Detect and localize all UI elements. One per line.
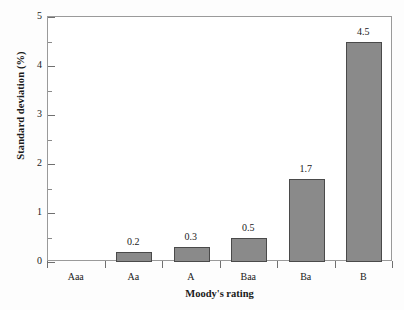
bar-value-label: 4.5 [343,27,383,37]
y-tick-major [48,213,55,214]
bar-value-label: 0.2 [113,237,153,247]
y-tick-label: 4 [16,60,42,70]
y-tick-major [48,17,55,18]
x-category-label: B [333,272,393,282]
x-tick [162,261,163,268]
y-tick-minor [48,91,52,92]
y-tick-minor [48,189,52,190]
y-tick-major [48,164,55,165]
y-axis-title: Standard deviation (%) [15,11,26,201]
x-tick [277,261,278,268]
x-tick [47,261,48,268]
y-tick-major [48,66,55,67]
x-tick [392,261,393,268]
y-tick-major [48,262,55,263]
bar [174,247,210,262]
bar-value-label: 0.3 [171,232,211,242]
bar-value-label: 0.5 [228,223,268,233]
y-tick-major [48,115,55,116]
y-tick-minor [48,42,52,43]
x-tick [105,261,106,268]
bar-value-label: 1.7 [286,164,326,174]
bar [346,42,382,263]
y-tick-label: 5 [16,11,42,21]
y-tick-label: 3 [16,109,42,119]
x-axis-title: Moody's rating [47,288,392,299]
x-category-label: Ba [276,272,336,282]
x-category-label: A [161,272,221,282]
plot-area [47,16,392,261]
bar [116,252,152,262]
x-category-label: Aa [103,272,163,282]
y-tick-minor [48,140,52,141]
x-tick [335,261,336,268]
y-tick-label: 1 [16,207,42,217]
y-tick-label: 0 [16,256,42,266]
chart-figure: Standard deviation (%) 012345 AaaAaABaaB… [0,0,404,310]
y-tick-label: 2 [16,158,42,168]
x-category-label: Baa [218,272,278,282]
bar [231,238,267,263]
y-tick-minor [48,238,52,239]
bar [289,179,325,262]
x-category-label: Aaa [46,272,106,282]
x-tick [220,261,221,268]
